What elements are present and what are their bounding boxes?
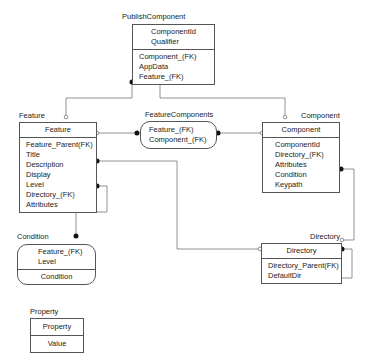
publish-component-label: PublishComponent	[122, 12, 185, 21]
field: DefaultDir	[268, 271, 335, 281]
field: ComponentId	[275, 140, 333, 150]
field: Component_(FK)	[149, 135, 208, 145]
field: Directory_(FK)	[26, 190, 90, 200]
directory-entity[interactable]: Directory Directory_Parent(FK) DefaultDi…	[261, 243, 342, 284]
condition-label: Condition	[17, 232, 49, 241]
condition-keys: Feature_(FK) Level	[18, 245, 95, 269]
feature-entity[interactable]: Feature Feature_Parent(FK) Title Descrip…	[19, 122, 97, 213]
property-entity[interactable]: Property Value	[30, 318, 84, 353]
field: Directory_Parent(FK)	[268, 261, 335, 271]
property-label: Property	[30, 307, 58, 316]
key-field: ComponentId	[151, 27, 208, 37]
component-header: Component	[263, 123, 339, 138]
feature-label: Feature	[19, 111, 45, 120]
field: Keypath	[275, 180, 333, 190]
field: Value	[31, 339, 83, 349]
field: Level	[26, 180, 90, 190]
property-fields: Value	[31, 336, 83, 352]
publish-component-entity[interactable]: ComponentId Qualifier Component_(FK) App…	[132, 24, 215, 85]
field: Directory_(FK)	[275, 150, 333, 160]
field: Attributes	[275, 160, 333, 170]
field: Attributes	[26, 200, 90, 210]
feature-header: Feature	[20, 123, 96, 138]
field: Condition	[275, 170, 333, 180]
component-fields: ComponentId Directory_(FK) Attributes Co…	[263, 138, 339, 192]
directory-fields: Directory_Parent(FK) DefaultDir	[262, 259, 341, 283]
field: Feature_(FK)	[149, 125, 208, 135]
feature-components-label: FeatureComponents	[145, 110, 213, 119]
directory-label: Directory	[310, 232, 340, 241]
property-header: Property	[31, 319, 83, 336]
field: Component_(FK)	[139, 52, 208, 62]
key-field: Qualifier	[151, 37, 208, 47]
field: Display	[26, 170, 90, 180]
field: Feature_Parent(FK)	[26, 140, 90, 150]
feature-components-entity[interactable]: Feature_(FK) Component_(FK)	[140, 121, 217, 149]
field: Feature_(FK)	[139, 72, 208, 82]
publish-component-fields: Component_(FK) AppData Feature_(FK)	[133, 49, 214, 84]
component-label: Component	[301, 111, 340, 120]
field: Condition	[24, 272, 89, 282]
component-entity[interactable]: Component ComponentId Directory_(FK) Att…	[262, 122, 340, 193]
feature-fields: Feature_Parent(FK) Title Description Dis…	[20, 138, 96, 212]
publish-component-keys: ComponentId Qualifier	[133, 25, 214, 49]
condition-fields: Condition	[18, 269, 95, 284]
key-field: Feature_(FK)	[38, 247, 89, 257]
field: AppData	[139, 62, 208, 72]
key-field: Level	[38, 257, 89, 267]
directory-header: Directory	[262, 244, 341, 259]
feature-components-fields: Feature_(FK) Component_(FK)	[141, 122, 216, 148]
condition-entity[interactable]: Feature_(FK) Level Condition	[17, 244, 96, 285]
field: Description	[26, 160, 90, 170]
field: Title	[26, 150, 90, 160]
